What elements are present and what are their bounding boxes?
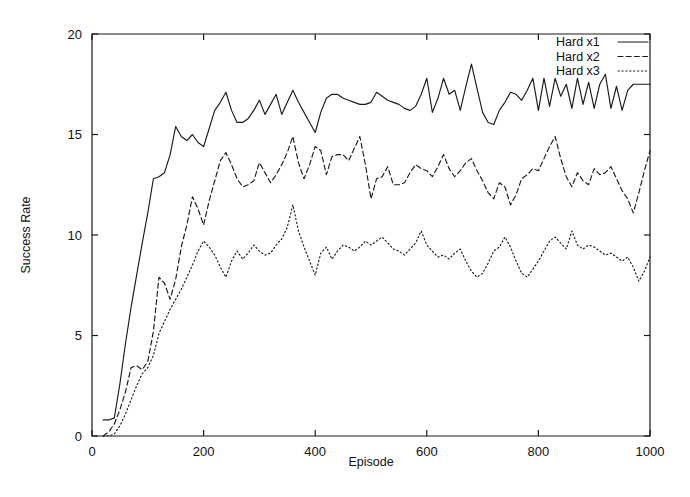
series-line-2 xyxy=(103,137,650,436)
series-line-3 xyxy=(103,205,650,436)
y-tick-label: 10 xyxy=(68,228,82,243)
axis-ticks xyxy=(92,34,650,436)
plot-border xyxy=(92,34,650,436)
plot-frame xyxy=(92,34,650,436)
chart-legend: Hard x1Hard x2Hard x3 xyxy=(556,35,648,78)
chart-figure: 0200400600800100005101520 Hard x1Hard x2… xyxy=(0,0,690,497)
legend-label-2: Hard x2 xyxy=(556,50,600,64)
x-tick-label: 1000 xyxy=(636,444,665,459)
x-tick-label: 600 xyxy=(416,444,438,459)
legend-label-3: Hard x3 xyxy=(556,64,600,78)
x-axis-title: Episode xyxy=(348,455,393,469)
y-tick-label: 20 xyxy=(68,27,82,42)
x-tick-label: 400 xyxy=(304,444,326,459)
y-axis-title: Success Rate xyxy=(19,196,33,273)
y-tick-label: 15 xyxy=(68,127,82,142)
y-tick-label: 0 xyxy=(75,429,82,444)
x-tick-label: 200 xyxy=(193,444,215,459)
x-tick-label: 800 xyxy=(528,444,550,459)
y-tick-label: 5 xyxy=(75,328,82,343)
x-tick-label: 0 xyxy=(88,444,95,459)
line-chart-canvas: 0200400600800100005101520 Hard x1Hard x2… xyxy=(0,0,690,497)
data-series-group xyxy=(103,64,650,436)
legend-label-1: Hard x1 xyxy=(556,35,600,49)
